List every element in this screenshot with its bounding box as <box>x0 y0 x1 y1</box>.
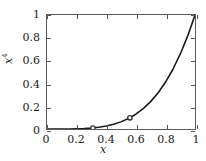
axis-tick <box>191 61 195 62</box>
data-point-marker <box>128 116 132 120</box>
axis-tick <box>191 38 195 39</box>
axis-tick <box>107 125 108 129</box>
axis-tick <box>191 131 195 132</box>
power-curve-line <box>47 15 195 129</box>
curve-svg <box>47 15 195 129</box>
axis-tick <box>47 125 48 129</box>
axis-tick <box>197 15 198 19</box>
x-axis-label: x <box>0 144 206 155</box>
chart-figure: 00.20.40.60.81 00.20.40.60.81 x4 x <box>0 0 206 161</box>
axis-tick <box>77 15 78 19</box>
y-tick-label: 1 <box>0 9 40 20</box>
y-axis-label: x4 <box>2 53 14 64</box>
axis-tick <box>47 61 51 62</box>
y-axis-label-exponent: 4 <box>1 53 9 57</box>
axis-tick <box>77 125 78 129</box>
axis-tick <box>167 15 168 19</box>
axis-tick <box>47 108 51 109</box>
axis-tick <box>107 15 108 19</box>
data-point-marker <box>91 126 95 129</box>
axis-tick <box>191 15 195 16</box>
axis-tick <box>47 15 48 19</box>
plot-area <box>46 14 196 130</box>
axis-tick <box>47 85 51 86</box>
axis-tick <box>191 85 195 86</box>
y-tick-label: 0.4 <box>0 79 40 90</box>
axis-tick <box>191 108 195 109</box>
axis-tick <box>137 15 138 19</box>
axis-tick <box>47 131 51 132</box>
axis-tick <box>47 38 51 39</box>
y-tick-label: 0.8 <box>0 32 40 43</box>
axis-tick <box>137 125 138 129</box>
axis-tick <box>167 125 168 129</box>
axis-tick <box>197 125 198 129</box>
y-axis-label-base: x <box>2 58 15 64</box>
y-tick-label: 0.2 <box>0 102 40 113</box>
